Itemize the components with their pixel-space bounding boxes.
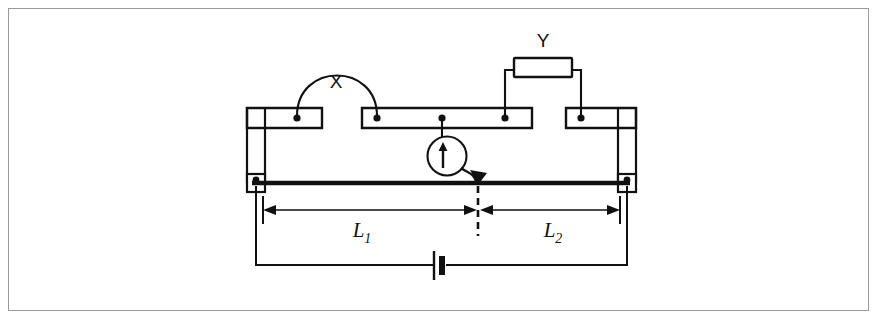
dimension-l1-arrow-left [263, 205, 276, 215]
terminal-block-right [566, 108, 636, 128]
resistor-y-label: Y [537, 30, 550, 51]
galvanometer-body [428, 137, 467, 176]
terminal-block-center [362, 108, 532, 128]
battery-loop-right [446, 186, 627, 265]
figure-root: X Y [0, 0, 879, 321]
dimension-l1-label: L1 [352, 218, 372, 246]
battery-loop-left [256, 186, 433, 265]
metre-bridge-diagram: X Y [0, 0, 879, 321]
dimension-l1: L1 [263, 205, 477, 246]
resistor-y-group: Y [505, 30, 581, 116]
dimension-l2-label: L2 [543, 218, 563, 246]
terminal-block-left [247, 108, 322, 128]
resistor-y-body [514, 58, 572, 77]
dimension-l2-arrow-right [607, 205, 620, 215]
dimension-l1-arrow-right [464, 205, 477, 215]
battery-cell [434, 251, 442, 280]
dimension-l2: L2 [480, 205, 620, 246]
resistor-x-label: X [330, 71, 343, 92]
dimension-l2-arrow-left [480, 205, 493, 215]
